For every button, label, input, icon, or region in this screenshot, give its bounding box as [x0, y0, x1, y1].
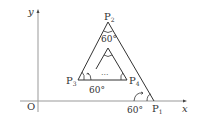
angle-label-p3: 60° [89, 85, 105, 95]
svg-text:P3: P3 [66, 75, 77, 87]
origin-label: O [27, 101, 35, 112]
point-label-p1: P1 [152, 103, 163, 115]
ellipsis: ··· [101, 70, 109, 79]
angle-arc-p2 [104, 31, 113, 33]
angle-label-p1: 60° [127, 105, 143, 115]
angle-label-apex: 60° [101, 34, 117, 44]
y-axis-arrow-icon [37, 9, 40, 13]
svg-text:P2: P2 [104, 11, 115, 23]
angle-arc-p4 [121, 73, 123, 80]
inner-left-leg [96, 48, 108, 69]
diagram-canvas: y x O ··· 60° 60° 60° P2 P3 P4 P1 [0, 0, 201, 129]
point-label-p3: P3 [66, 75, 77, 87]
y-axis-label: y [27, 6, 34, 17]
point-label-p4: P4 [129, 75, 140, 87]
angle-arc-inner-apex [104, 55, 112, 57]
angle-arc-p3 [82, 72, 84, 80]
point-label-p2: P2 [104, 11, 115, 23]
inner-right-leg [108, 48, 127, 80]
x-axis-label: x [182, 103, 188, 114]
svg-text:P1: P1 [152, 103, 163, 115]
angle-arrow-p3-icon [87, 73, 89, 75]
svg-text:P4: P4 [129, 75, 140, 87]
